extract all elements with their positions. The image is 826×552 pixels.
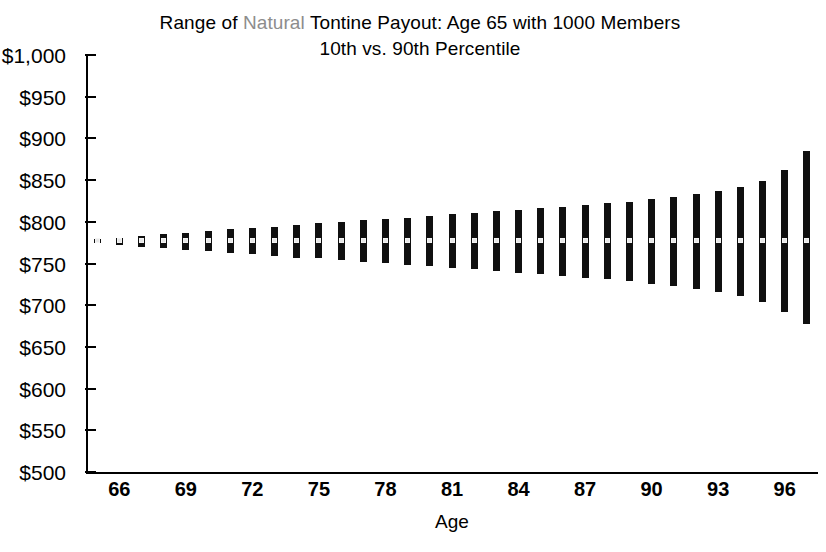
range-bar <box>803 151 810 324</box>
y-axis-tick <box>85 346 96 348</box>
y-axis-tick-label: $950 <box>0 87 66 108</box>
median-marker <box>405 238 410 243</box>
title-segment-pre: Range of <box>160 12 243 33</box>
x-axis-title: Age <box>86 512 818 531</box>
median-marker <box>339 238 344 243</box>
y-axis-tick-label: $650 <box>0 337 66 358</box>
median-marker <box>494 238 499 243</box>
x-axis-tick-label: 69 <box>156 479 216 499</box>
median-marker <box>95 238 100 243</box>
y-axis-tick <box>85 179 96 181</box>
y-axis-tick-label: $850 <box>0 170 66 191</box>
median-marker <box>294 238 299 243</box>
median-marker <box>605 238 610 243</box>
y-axis-tick <box>85 388 96 390</box>
y-axis-tick <box>85 96 96 98</box>
x-axis-tick-label: 90 <box>622 479 682 499</box>
median-marker <box>427 238 432 243</box>
y-axis-tick <box>85 304 96 306</box>
title-segment-accent: Natural <box>243 12 305 33</box>
y-axis-tick-label: $900 <box>0 128 66 149</box>
median-marker <box>361 238 366 243</box>
y-axis-tick-label: $700 <box>0 295 66 316</box>
median-marker <box>472 238 477 243</box>
median-marker <box>206 238 211 243</box>
median-marker <box>228 238 233 243</box>
median-marker <box>694 238 699 243</box>
x-axis-tick-label: 66 <box>89 479 149 499</box>
median-marker <box>649 238 654 243</box>
title-segment-post: Tontine Payout: Age 65 with 1000 Members <box>305 12 681 33</box>
median-marker <box>272 238 277 243</box>
chart-container: Range of Natural Tontine Payout: Age 65 … <box>0 0 826 552</box>
x-axis-tick-label: 78 <box>355 479 415 499</box>
y-axis-tick-label: $800 <box>0 212 66 233</box>
y-axis-line <box>86 55 88 474</box>
median-marker <box>516 238 521 243</box>
y-axis-tick <box>85 221 96 223</box>
y-axis-tick <box>85 137 96 139</box>
x-axis-tick-label: 93 <box>688 479 748 499</box>
median-marker <box>716 238 721 243</box>
y-axis-tick <box>85 429 96 431</box>
median-marker <box>627 238 632 243</box>
median-marker <box>782 238 787 243</box>
y-axis-tick-label: $500 <box>0 462 66 483</box>
median-marker <box>760 238 765 243</box>
median-marker <box>183 238 188 243</box>
y-axis-tick-label: $550 <box>0 420 66 441</box>
x-axis-tick-label: 81 <box>422 479 482 499</box>
median-marker <box>671 238 676 243</box>
median-marker <box>139 238 144 243</box>
plot-area: $1,000$950$900$850$800$750$700$650$600$5… <box>86 55 818 473</box>
median-marker <box>316 238 321 243</box>
y-axis-tick <box>85 54 96 56</box>
median-marker <box>804 238 809 243</box>
x-axis-line <box>86 472 818 474</box>
x-axis-tick-label: 72 <box>222 479 282 499</box>
median-marker <box>560 238 565 243</box>
y-axis-tick-label: $750 <box>0 254 66 275</box>
median-marker <box>161 238 166 243</box>
median-marker <box>583 238 588 243</box>
y-axis-tick-label: $1,000 <box>0 45 66 66</box>
median-marker <box>450 238 455 243</box>
median-marker <box>738 238 743 243</box>
x-axis-tick-label: 84 <box>489 479 549 499</box>
median-marker <box>250 238 255 243</box>
y-axis-tick <box>85 263 96 265</box>
median-marker <box>538 238 543 243</box>
median-marker <box>117 238 122 243</box>
chart-title-line-1: Range of Natural Tontine Payout: Age 65 … <box>110 10 730 36</box>
x-axis-tick-label: 96 <box>755 479 815 499</box>
x-axis-tick-label: 75 <box>289 479 349 499</box>
y-axis-tick <box>85 471 96 473</box>
x-axis-tick-label: 87 <box>555 479 615 499</box>
median-marker <box>383 238 388 243</box>
y-axis-tick-label: $600 <box>0 379 66 400</box>
